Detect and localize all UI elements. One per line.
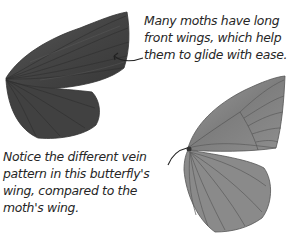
moth-caption-line: Many moths have long — [144, 12, 287, 29]
butterfly-caption-line: moth's wing. — [3, 199, 150, 216]
butterfly-caption-line: wing, compared to the — [3, 182, 150, 199]
butterfly-caption-line: Notice the different vein — [3, 148, 150, 165]
butterfly-caption: Notice the different vein pattern in thi… — [3, 148, 150, 216]
butterfly-wing — [184, 76, 285, 232]
butterfly-caption-line: pattern in this butterfly's — [3, 165, 150, 182]
moth-caption-line: them to glide with ease. — [144, 46, 287, 63]
moth-caption-line: front wings, which help — [144, 29, 287, 46]
moth-caption: Many moths have long front wings, which … — [144, 12, 287, 63]
moth-wing — [6, 12, 129, 138]
